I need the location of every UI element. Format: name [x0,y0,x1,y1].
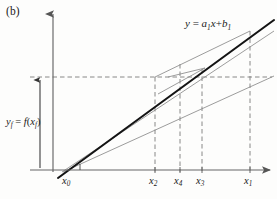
droplines-group [155,31,250,172]
yf-subscript: f [11,121,13,129]
tick-label-x1-symbol: x [244,175,249,186]
tick-label-x1: x1 [244,176,252,187]
secant-method-plot [0,0,277,199]
tick-label-x4-subscript: 4 [179,180,183,188]
tick-label-x4: x4 [174,176,182,187]
chord-x2-to-x1 [155,31,250,77]
equation-intercept-subscript: 1 [227,23,231,32]
equation-slope-subscript: 1 [207,23,211,32]
yf-symbol: y [6,116,11,127]
equation-label: y = a1x+b1 [185,18,231,29]
tick-label-x0-symbol: x [62,175,67,186]
tick-label-x0: x0 [62,176,70,187]
tick-label-x2-symbol: x [149,175,154,186]
tick-label-x2: x2 [149,176,157,187]
yf-arg-subscript: f [35,121,37,129]
yf-paren-close: ) [37,116,41,127]
figure-panel-b: (b) y = a1x+b1 yf = f(xf) x0 x2 x4 x3 x1 [0,0,277,199]
tick-label-x1-subscript: 1 [249,180,253,188]
secant-lower-line [63,76,274,172]
main-line-a1x-b1 [58,20,274,178]
tick-label-x2-subscript: 2 [154,180,158,188]
tick-label-x3: x3 [196,176,204,187]
equation-equals: = [190,17,202,29]
y-value-label: yf = f(xf) [6,117,40,128]
tick-label-x4-symbol: x [174,175,179,186]
tick-label-x0-subscript: 0 [67,180,71,188]
tick-label-x3-subscript: 3 [201,180,205,188]
yf-equals: = [13,116,24,127]
panel-tag: (b) [6,6,20,18]
tick-label-x3-symbol: x [196,175,201,186]
